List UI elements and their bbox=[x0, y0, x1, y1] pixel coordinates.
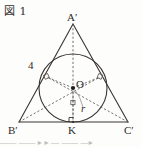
side-A-B-ghost-line bbox=[16, 27, 70, 121]
tangent-mark-left bbox=[43, 73, 49, 79]
triangle-outline bbox=[19, 24, 128, 122]
incenter-point bbox=[71, 86, 75, 90]
page-text-fragment: —— —— ▸ ▸ — —— —▸ bbox=[0, 138, 142, 147]
label-vertex-C-prime: C′ bbox=[124, 124, 134, 136]
label-point-K: K bbox=[68, 124, 76, 136]
label-vertex-B-prime: B′ bbox=[8, 124, 18, 136]
figure-container: 図 1 bbox=[0, 0, 142, 147]
label-side-length-4: 4 bbox=[28, 59, 34, 71]
label-center-O: O bbox=[76, 78, 84, 90]
label-radius-r: r bbox=[81, 102, 85, 114]
construction-lines bbox=[19, 24, 128, 122]
label-apex-A-prime: A′ bbox=[67, 11, 77, 23]
radius-O-left-line bbox=[47, 77, 73, 88]
vertex-dot-K bbox=[72, 121, 74, 123]
